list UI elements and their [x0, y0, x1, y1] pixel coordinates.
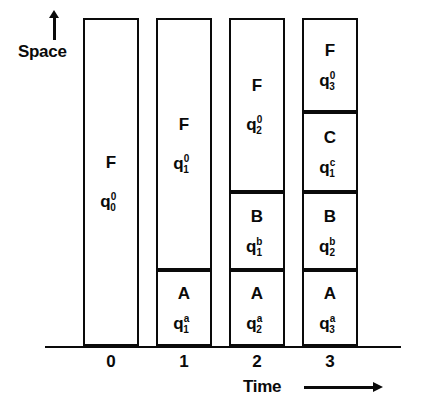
state-subscript: 2 — [256, 125, 262, 136]
x-tick-label-2: 2 — [229, 352, 285, 372]
arrow-up-icon — [53, 16, 56, 40]
state-base: q — [319, 237, 329, 256]
cell-a-t3: Aqa3 — [302, 270, 358, 346]
arrow-right-icon — [304, 386, 374, 389]
cell-state-label: qb2 — [319, 238, 341, 255]
x-tick-label-3: 3 — [302, 352, 358, 372]
cell-a-t1: Aqa1 — [156, 270, 212, 346]
cell-symbol: F — [106, 154, 116, 171]
time-column-0: Fq00 — [83, 0, 139, 346]
cell-state-label: qa3 — [319, 315, 341, 332]
state-subscript: 1 — [183, 324, 189, 335]
state-superscript: 0 — [330, 70, 336, 81]
x-axis-label: Time — [243, 377, 281, 397]
cell-symbol: A — [251, 285, 263, 302]
cell-state-label: qa1 — [173, 315, 195, 332]
cell-state-label: qc1 — [319, 159, 341, 176]
state-superscript: b — [329, 236, 335, 247]
state-subscript: 0 — [110, 202, 116, 213]
cell-b-t3: Bqb2 — [302, 192, 358, 270]
state-subscript: 3 — [329, 81, 335, 92]
cell-state-label: q03 — [319, 72, 341, 89]
cell-symbol: B — [251, 208, 263, 225]
cell-symbol: F — [252, 77, 262, 94]
cell-f-t1: Fq01 — [156, 18, 212, 270]
x-tick-label-1: 1 — [156, 352, 212, 372]
state-subscript: 1 — [256, 247, 262, 258]
axis-tick — [83, 330, 85, 347]
space-time-diagram: Space Fq00Fq01Aqa1Fq02Bqb1Aqa2Fq03Cqc1Bq… — [0, 0, 423, 409]
cell-symbol: F — [325, 42, 335, 59]
cell-state-label: qa2 — [246, 315, 268, 332]
cell-state-label: q01 — [173, 155, 195, 172]
cell-c-t3: Cqc1 — [302, 112, 358, 192]
cell-f-t0: Fq00 — [83, 18, 139, 346]
state-superscript: 0 — [111, 191, 117, 202]
cell-f-t3: Fq03 — [302, 18, 358, 112]
x-tick-label-0: 0 — [83, 352, 139, 372]
state-subscript: 2 — [256, 324, 262, 335]
cell-state-label: qb1 — [246, 238, 268, 255]
cell-symbol: B — [324, 208, 336, 225]
state-superscript: a — [184, 313, 190, 324]
state-superscript: b — [256, 236, 262, 247]
cell-f-t2: Fq02 — [229, 18, 285, 192]
state-subscript: 3 — [329, 324, 335, 335]
state-superscript: c — [330, 157, 336, 168]
state-superscript: a — [257, 313, 263, 324]
cell-b-t2: Bqb1 — [229, 192, 285, 270]
cell-symbol: F — [179, 116, 189, 133]
state-superscript: 0 — [184, 153, 190, 164]
axis-tick — [210, 330, 212, 347]
axis-tick — [156, 330, 158, 347]
state-base: q — [246, 237, 256, 256]
cell-symbol: C — [324, 129, 336, 146]
cell-symbol: A — [178, 285, 190, 302]
axis-tick — [137, 330, 139, 347]
cell-a-t2: Aqa2 — [229, 270, 285, 346]
time-column-1: Fq01Aqa1 — [156, 0, 212, 346]
cell-state-label: q02 — [246, 116, 268, 133]
axis-tick — [283, 330, 285, 347]
cell-state-label: q00 — [100, 193, 122, 210]
axis-tick — [302, 330, 304, 347]
axis-tick — [229, 330, 231, 347]
y-axis-label: Space — [18, 42, 67, 62]
state-subscript: 1 — [183, 164, 189, 175]
time-axis-line — [45, 346, 401, 348]
time-column-3: Fq03Cqc1Bqb2Aqa3 — [302, 0, 358, 346]
state-subscript: 2 — [329, 247, 335, 258]
time-column-2: Fq02Bqb1Aqa2 — [229, 0, 285, 346]
state-superscript: 0 — [257, 114, 263, 125]
cell-symbol: A — [324, 285, 336, 302]
state-superscript: a — [330, 313, 336, 324]
state-subscript: 1 — [329, 168, 335, 179]
axis-tick — [356, 330, 358, 347]
